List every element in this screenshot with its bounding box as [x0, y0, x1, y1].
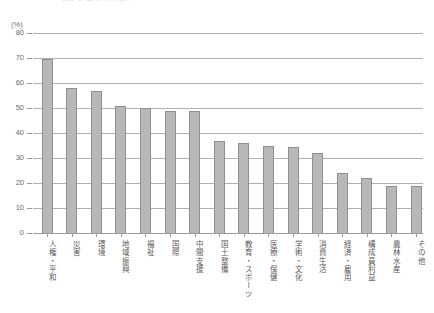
- bar: [288, 147, 299, 233]
- x-tick-mark: [72, 233, 73, 237]
- y-tick-label: 30: [2, 154, 24, 162]
- bar: [189, 111, 200, 234]
- y-tick-label: 10: [2, 204, 24, 212]
- bar: [312, 153, 323, 233]
- x-tick-mark: [145, 233, 146, 237]
- bar: [140, 108, 151, 233]
- x-tick-label: 福祉: [140, 240, 153, 257]
- x-tick-mark: [170, 233, 171, 237]
- x-tick-mark: [47, 233, 48, 237]
- x-tick-label: 人権・平和: [42, 240, 55, 282]
- bar: [214, 141, 225, 234]
- y-tick-mark: [27, 133, 32, 134]
- x-tick-mark: [219, 233, 220, 237]
- x-tick-label: 環境: [91, 240, 104, 257]
- y-tick-mark: [27, 183, 32, 184]
- x-tick-label: 消費生活: [313, 240, 326, 273]
- x-tick-mark: [391, 233, 392, 237]
- y-tick-mark: [27, 233, 32, 234]
- bar-chart: 図1 活動分野別割合 (%) 80706050403020100 人権・平和災害…: [0, 0, 434, 313]
- y-tick-mark: [27, 158, 32, 159]
- x-tick-label: 国際: [165, 240, 178, 257]
- y-tick-label: 40: [2, 129, 24, 137]
- bar: [263, 146, 274, 234]
- bar: [238, 143, 249, 233]
- bar: [386, 186, 397, 234]
- bar: [91, 91, 102, 234]
- x-tick-label: 国土整備: [214, 240, 227, 273]
- y-tick-mark: [27, 58, 32, 59]
- x-tick-label: その他: [411, 240, 424, 265]
- y-tick-label: 20: [2, 179, 24, 187]
- x-tick-mark: [268, 233, 269, 237]
- gridline: [33, 233, 423, 234]
- x-tick-label: 構成員利益: [362, 240, 375, 282]
- bar: [361, 178, 372, 233]
- bar: [165, 111, 176, 234]
- x-tick-label: 医療・保健: [263, 240, 276, 282]
- chart-title: 図1 活動分野別割合: [62, 0, 172, 1]
- x-tick-label: 災害: [67, 240, 80, 257]
- bar: [66, 88, 77, 233]
- x-tick-label: 経済・雇用: [337, 240, 350, 282]
- y-tick-label: 50: [2, 104, 24, 112]
- y-tick-label: 80: [2, 29, 24, 37]
- y-tick-mark: [27, 33, 32, 34]
- x-tick-mark: [244, 233, 245, 237]
- y-tick-mark: [27, 108, 32, 109]
- bar: [411, 186, 422, 234]
- x-tick-label: 中間支援: [190, 240, 203, 273]
- x-tick-label: 学術・文化: [288, 240, 301, 282]
- x-tick-mark: [195, 233, 196, 237]
- y-tick-label: 70: [2, 54, 24, 62]
- y-tick-label: 60: [2, 79, 24, 87]
- x-tick-mark: [318, 233, 319, 237]
- y-tick-label: 0: [2, 229, 24, 237]
- x-tick-label: 農林水産: [386, 240, 399, 273]
- x-tick-label: 教育・スポーツ: [239, 240, 252, 298]
- x-tick-mark: [121, 233, 122, 237]
- y-tick-mark: [27, 83, 32, 84]
- x-tick-mark: [96, 233, 97, 237]
- bar: [42, 59, 53, 233]
- x-tick-mark: [293, 233, 294, 237]
- x-tick-mark: [416, 233, 417, 237]
- x-tick-mark: [367, 233, 368, 237]
- x-tick-mark: [342, 233, 343, 237]
- y-tick-mark: [27, 208, 32, 209]
- bar: [115, 106, 126, 234]
- x-tick-label: 地域振興: [116, 240, 129, 273]
- bar: [337, 173, 348, 233]
